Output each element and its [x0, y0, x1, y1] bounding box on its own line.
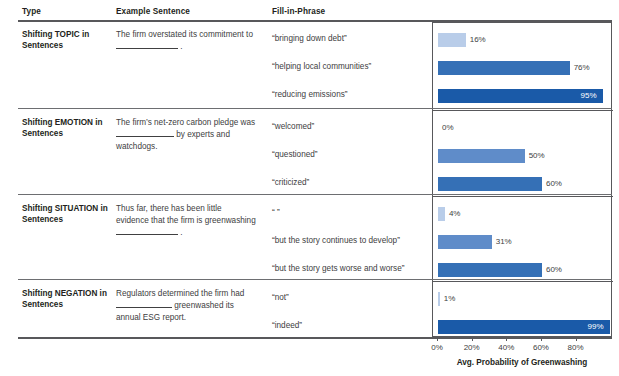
section-type-label: Shifting EMOTION in Sentences [22, 117, 114, 139]
bar [438, 33, 466, 47]
sentence-prefix: The firm’s net-zero carbon pledge was [116, 118, 255, 127]
bar-row: 76% [438, 61, 613, 75]
section-rule [18, 279, 612, 280]
bar-value-label: 1% [444, 292, 456, 306]
section-type-label: Shifting TOPIC in Sentences [22, 29, 114, 51]
bar-value-label: 16% [470, 33, 486, 47]
section-rule [18, 194, 612, 195]
sentence-prefix: Regulators determined the firm had [116, 289, 244, 298]
axis-tick-label: 40% [498, 343, 514, 352]
sentence-blank [116, 129, 174, 137]
column-header-example: Example Sentence [116, 6, 256, 17]
sentence-suffix: . [178, 228, 183, 237]
section-type-label: Shifting NEGATION in Sentences [22, 288, 114, 310]
bar-row: 60% [438, 177, 613, 191]
column-header-phrase: Fill-in-Phrase [272, 6, 430, 17]
sentence-prefix: Thus far, there has been little evidence… [116, 204, 256, 225]
fill-in-phrase-label: “helping local communities” [272, 62, 432, 72]
bar [438, 207, 445, 221]
fill-in-phrase-label: “but the story gets worse and worse” [272, 264, 432, 274]
panel-divider [433, 196, 613, 197]
fill-in-phrase-label: “not” [272, 293, 432, 303]
bar [438, 149, 525, 163]
section-rule-bottom [18, 337, 612, 339]
axis-tick-label: 80% [568, 343, 584, 352]
sentence-blank [116, 300, 172, 308]
bar-value-label: 60% [546, 263, 562, 277]
bar-row: 99% [438, 320, 613, 334]
bar-row: 1% [438, 292, 613, 306]
bar [438, 263, 542, 277]
panel-divider [433, 110, 613, 111]
bar-row: 31% [438, 235, 613, 249]
bar-value-label: 99% [588, 320, 604, 334]
section-example-sentence: The firm overstated its commitment to . [116, 29, 256, 53]
bar-value-label: 4% [449, 207, 461, 221]
panel-divider [433, 281, 613, 282]
bar-row: 16% [438, 33, 613, 47]
section-rule [18, 108, 612, 109]
axis-tick-label: 0% [431, 343, 443, 352]
fill-in-phrase-label: “criticized” [272, 178, 432, 188]
section-type-label: Shifting SITUATION in Sentences [22, 203, 114, 225]
fill-in-phrase-label: “ ” [272, 208, 432, 218]
section-example-sentence: The firm’s net-zero carbon pledge was by… [116, 117, 256, 152]
sentence-blank [116, 41, 178, 49]
bar-value-label: 95% [581, 89, 597, 103]
fill-in-phrase-label: “reducing emissions” [272, 90, 432, 100]
bar-row: 0% [438, 121, 613, 135]
sentence-blank [116, 227, 178, 235]
bar-row: 4% [438, 207, 613, 221]
bar-row: 95% [438, 89, 613, 103]
fill-in-phrase-label: “questioned” [272, 150, 432, 160]
axis-tick-label: 20% [464, 343, 480, 352]
sentence-suffix: . [178, 42, 183, 51]
bar-value-label: 0% [442, 121, 454, 135]
bar-value-label: 50% [529, 149, 545, 163]
bar-chart-panel: 16%76%95%0%50%60%4%31%60%1%99% [432, 22, 612, 337]
bar-value-label: 76% [574, 61, 590, 75]
axis-tick-label: 60% [533, 343, 549, 352]
fill-in-phrase-label: “bringing down debt” [272, 34, 432, 44]
axis-title: Avg. Probability of Greenwashing [432, 358, 612, 367]
bar [438, 89, 603, 103]
bar [438, 177, 542, 191]
section-example-sentence: Thus far, there has been little evidence… [116, 203, 256, 238]
fill-in-phrase-label: “welcomed” [272, 122, 432, 132]
bar [438, 61, 570, 75]
bar [438, 235, 492, 249]
bar [438, 292, 440, 306]
section-rule [18, 20, 612, 22]
bar-value-label: 31% [496, 235, 512, 249]
fill-in-phrase-label: “indeed” [272, 321, 432, 331]
greenwashing-figure: Type Example Sentence Fill-in-Phrase 16%… [0, 0, 619, 376]
section-example-sentence: Regulators determined the firm had green… [116, 288, 256, 323]
column-header-type: Type [22, 6, 114, 17]
bar-row: 60% [438, 263, 613, 277]
bar-value-label: 60% [546, 177, 562, 191]
sentence-prefix: The firm overstated its commitment to [116, 30, 253, 39]
x-axis: 0%20%40%60%80% Avg. Probability of Green… [432, 337, 612, 376]
bar [438, 320, 610, 334]
bar-row: 50% [438, 149, 613, 163]
fill-in-phrase-label: “but the story continues to develop” [272, 236, 432, 246]
